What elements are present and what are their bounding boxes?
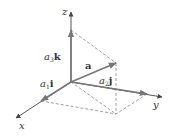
z-axis-label: z <box>62 7 67 17</box>
dash-a1i-to-base <box>41 101 116 114</box>
a3k-unit: k <box>54 51 61 62</box>
y-axis-label: y <box>153 100 159 110</box>
dash-a2j-to-base <box>116 94 147 114</box>
component-vectors <box>41 30 147 101</box>
a1i-unit: i <box>50 78 54 89</box>
a2j-unit: j <box>109 75 113 86</box>
dash-a3k-to-a <box>71 30 116 63</box>
x-axis-label: x <box>19 121 25 131</box>
a1i-label: a1i <box>40 79 54 90</box>
a3k-label: a3k <box>44 52 61 63</box>
a2j-label: a2j <box>99 76 112 87</box>
vector-a-label: a <box>85 61 91 71</box>
